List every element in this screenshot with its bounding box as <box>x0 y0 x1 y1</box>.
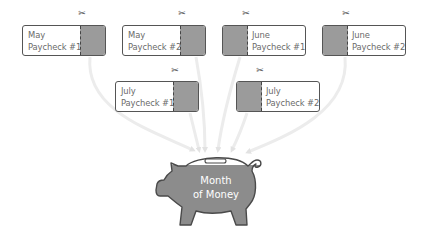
month-of-money-diagram: ✂ May Paycheck #1 ✂ May Paycheck #2 ✂ Ju… <box>0 0 428 239</box>
piggy-bank-label: Month of Money <box>183 174 249 202</box>
piggy-bank-label-line1: Month <box>183 174 249 188</box>
piggy-bank-label-line2: of Money <box>183 188 249 202</box>
piggy-bank-icon <box>0 0 428 239</box>
coin-slot <box>205 159 226 163</box>
